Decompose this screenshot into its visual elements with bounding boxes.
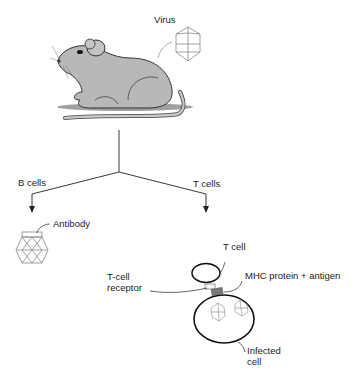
mhc-label: MHC protein + antigen: [245, 270, 340, 281]
mouse-body: [58, 46, 172, 108]
virus-label: Virus: [154, 14, 175, 25]
internal-virus-icon: [211, 300, 248, 321]
t-cells-label: T cells: [193, 178, 220, 189]
antibody-virus-icon: [16, 232, 48, 263]
immune-response-diagram: [0, 0, 361, 378]
t-cell-label: T cell: [223, 241, 246, 252]
mouse-eye: [77, 50, 83, 54]
infected-cell-label: Infected cell: [247, 345, 281, 367]
tcr-label: T-cell receptor: [107, 271, 142, 293]
infected-cell: [194, 295, 254, 343]
tcr-label-line1: T-cell: [107, 271, 142, 282]
infected-label-line1: Infected: [247, 345, 281, 356]
antibody-label: Antibody: [53, 218, 90, 229]
infected-label-line2: cell: [247, 356, 281, 367]
b-cells-label: B cells: [18, 177, 46, 188]
tcr-label-line2: receptor: [107, 282, 142, 293]
virus-icon: [176, 27, 200, 61]
virus-arrow: [158, 42, 172, 58]
t-cell: [192, 264, 220, 283]
